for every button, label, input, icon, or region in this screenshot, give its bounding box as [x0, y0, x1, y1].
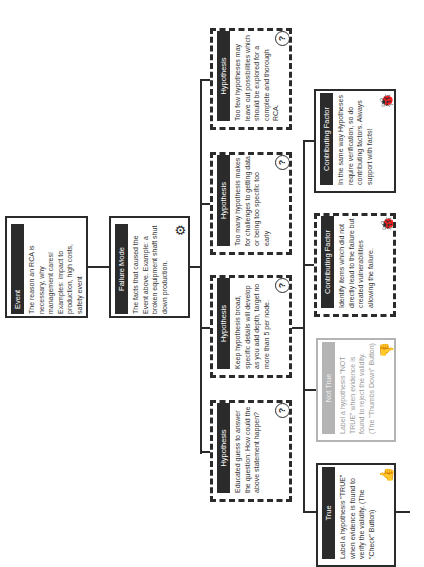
hypothesis-node-2[interactable]: Hypothesis Too many hypothesis makes for…	[210, 152, 292, 255]
question-icon: ?	[275, 278, 290, 293]
connector-cf2	[303, 264, 314, 266]
connector-h4	[200, 451, 210, 453]
hypothesis-node-1[interactable]: Hypothesis Too few hypotheses may leave …	[210, 28, 292, 130]
hypothesis-text: Too few hypotheses may leave out possibi…	[233, 31, 281, 121]
hypothesis-text: Educated guess to answer the question: H…	[233, 403, 262, 493]
connector-cf1	[303, 140, 314, 142]
bug-icon: 🐞	[380, 93, 393, 109]
hypothesis-node-3[interactable]: Hypothesis Keep hypothesis broad, specif…	[210, 275, 292, 378]
hypothesis-title: Hypothesis	[217, 155, 230, 246]
contributing-factor-text: In the same way Hypotheses require verif…	[336, 93, 374, 185]
hypothesis-title: Hypothesis	[217, 31, 230, 121]
question-icon: ?	[275, 31, 290, 46]
bug-icon: 🐞	[381, 216, 394, 232]
not-true-title: Not True	[322, 342, 335, 434]
contributing-factor-node-1[interactable]: Contributing Factor In the same way Hypo…	[314, 89, 396, 193]
question-icon: ?	[275, 155, 290, 170]
thumbs-down-icon: 👎	[380, 342, 393, 358]
connector-h1	[200, 79, 210, 81]
connector-true	[303, 511, 316, 513]
not-true-text: Label a hypothesis "NOT TRUE" when evide…	[338, 342, 376, 434]
hypothesis-text: Keep hypothesis broad, specific details …	[233, 278, 271, 369]
contributing-factor-text: Identify items which did not directly le…	[337, 216, 375, 308]
hypothesis-node-4[interactable]: Hypothesis Educated guess to answer the …	[210, 400, 292, 502]
failure-mode-node[interactable]: Failure Mode The facts that caused the E…	[109, 216, 190, 318]
gear-icon: ⚙	[174, 224, 187, 236]
connector-event-failure	[88, 266, 109, 268]
warning-triangle-icon: ⚠	[11, 224, 24, 236]
connector-h2	[200, 203, 210, 205]
hypothesis-title: Hypothesis	[217, 278, 230, 369]
event-text: The reason an RCA is necessary, why mana…	[27, 224, 84, 314]
not-true-node[interactable]: Not True Label a hypothesis "NOT TRUE" w…	[316, 338, 396, 442]
true-node[interactable]: True Label a hypothesis "TRUE" when evid…	[316, 463, 396, 567]
connector-not-true	[303, 389, 316, 391]
trunk-hypotheses	[200, 79, 202, 454]
connector-true-right	[396, 511, 410, 513]
connector-h3	[200, 327, 210, 329]
true-text: Label a hypothesis "TRUE" when evidence …	[338, 467, 376, 559]
hypothesis-text: Too many hypothesis makes for challenges…	[233, 155, 271, 246]
trunk-factors	[303, 140, 305, 513]
true-title: True	[322, 467, 335, 559]
contributing-factor-title: Contributing Factor	[320, 93, 333, 185]
failure-mode-title: Failure Mode	[115, 224, 128, 314]
thumbs-up-icon: 👍	[380, 467, 393, 483]
contributing-factor-title: Contributing Factor	[321, 216, 334, 308]
question-icon: ?	[275, 403, 290, 418]
event-title: Event	[11, 224, 24, 314]
event-node[interactable]: Event The reason an RCA is necessary, wh…	[5, 216, 88, 318]
contributing-factor-node-2[interactable]: Contributing Factor Identify items which…	[314, 213, 396, 317]
failure-mode-text: The facts that caused the Event above. E…	[131, 224, 169, 314]
hypothesis-title: Hypothesis	[217, 403, 230, 493]
